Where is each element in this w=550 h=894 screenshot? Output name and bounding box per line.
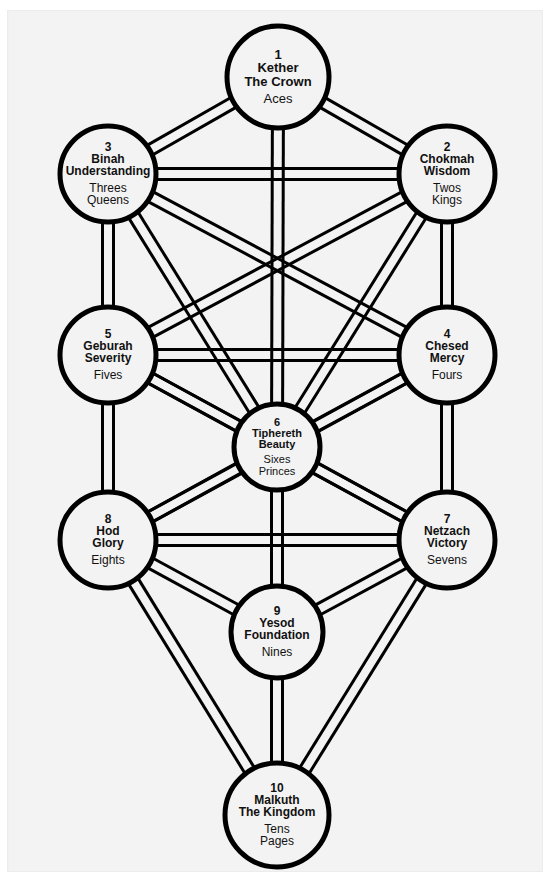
nodes-layer — [60, 26, 495, 867]
sephirah-circle-kether[interactable] — [227, 26, 329, 128]
tree-path-chesed-to-tiphereth — [307, 370, 413, 434]
tree-path-binah-to-chesed — [142, 189, 412, 340]
tree-path-chesed-to-netzach — [442, 397, 453, 498]
tree-path-kether-to-chokmah — [314, 95, 413, 158]
sephirah-circle-geburah[interactable] — [60, 307, 156, 403]
sephirah-circle-chesed[interactable] — [399, 307, 495, 403]
screenshot-page: 1KetherThe CrownAces2ChokmahWisdomTwosKi… — [0, 0, 550, 894]
sephirah-circle-yesod[interactable] — [231, 586, 323, 678]
tree-path-geburah-to-hod — [103, 397, 114, 498]
tree-path-tiphereth-to-yesod — [272, 484, 283, 592]
tree-path-yesod-to-malkuth — [272, 672, 283, 769]
tree-path-chokmah-to-chesed — [442, 216, 453, 313]
tree-path-chesed-to-geburah — [150, 350, 405, 361]
tree-path-tiphereth-to-netzach — [307, 460, 413, 525]
sephirah-circle-hod[interactable] — [60, 492, 156, 588]
tree-path-kether-to-binah — [142, 95, 242, 158]
sephirah-circle-malkuth[interactable] — [225, 763, 329, 867]
tree-path-kether-to-tiphereth — [272, 122, 284, 410]
tree-of-life-diagram — [0, 0, 550, 894]
tree-path-chokmah-to-geburah — [142, 189, 412, 340]
tree-path-chokmah-to-binah — [150, 169, 405, 180]
sephirah-circle-netzach[interactable] — [399, 492, 495, 588]
sephirah-circle-tiphereth[interactable] — [234, 404, 320, 490]
tree-path-tiphereth-to-hod — [142, 460, 247, 525]
sephirah-circle-binah[interactable] — [60, 126, 156, 222]
tree-path-binah-to-geburah — [103, 216, 114, 313]
sephirah-circle-chokmah[interactable] — [399, 126, 495, 222]
tree-path-netzach-to-hod — [150, 535, 405, 546]
tree-path-geburah-to-tiphereth — [142, 370, 247, 434]
